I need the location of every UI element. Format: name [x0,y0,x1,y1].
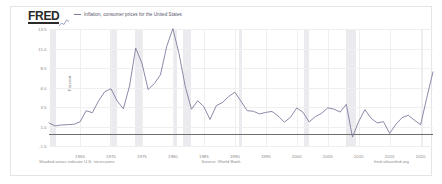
y-tick-label: 13.5 [38,27,47,32]
legend-swatch [74,14,81,15]
fred-chart-widget: FRED Inflation, consumer prices for the … [0,0,442,184]
plot-area: Percent 13.511.08.56.03.51.0-1.5 1965197… [49,29,433,146]
series-line [49,29,433,146]
legend-label: Inflation, consumer prices for the Unite… [84,12,182,17]
chart-header: FRED Inflation, consumer prices for the … [11,7,431,27]
gridline-horizontal [49,146,433,147]
y-tick-label: 11.0 [38,46,46,51]
chart-frame: FRED Inflation, consumer prices for the … [10,6,432,176]
y-tick-label: 1.0 [40,124,46,129]
y-tick-label: -1.5 [39,144,47,149]
y-tick-label: 6.0 [40,85,46,90]
footer-attribution[interactable]: fred.stlouisfed.org [374,159,409,164]
fred-logo[interactable]: FRED [28,10,59,24]
line-graph-icon [59,13,69,21]
chart-legend[interactable]: Inflation, consumer prices for the Unite… [74,12,182,17]
chart-footer: Shaded areas indicate U.S. recessions So… [11,159,431,169]
y-tick-label: 3.5 [40,105,46,110]
y-tick-label: 8.5 [40,66,46,71]
footer-recession-note: Shaded areas indicate U.S. recessions [39,159,115,164]
footer-source: Source: World Bank [202,159,241,164]
